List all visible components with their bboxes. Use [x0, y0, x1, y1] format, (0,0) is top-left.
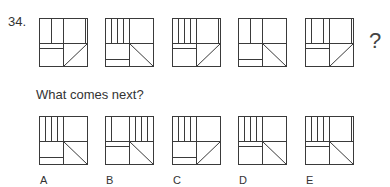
option-d-label[interactable]: D — [239, 174, 247, 186]
figure-line — [130, 142, 154, 165]
sequence-figure-3 — [172, 18, 221, 67]
option-e-label[interactable]: E — [306, 174, 313, 186]
option-b-label[interactable]: B — [106, 174, 113, 186]
sequence-figure-5 — [305, 18, 354, 67]
missing-figure-marker: ? — [369, 28, 381, 54]
question-prompt: What comes next? — [36, 87, 144, 102]
figure-line — [64, 44, 88, 67]
figure-line — [330, 44, 354, 67]
option-c-figure[interactable] — [172, 116, 221, 165]
figure-line — [263, 142, 287, 165]
question-number: 34. — [8, 14, 26, 29]
figure-line — [263, 44, 287, 67]
sequence-figure-1 — [39, 18, 88, 67]
option-d-figure[interactable] — [238, 116, 287, 165]
option-e-figure[interactable] — [305, 116, 354, 165]
option-a-label[interactable]: A — [40, 174, 47, 186]
option-a-figure[interactable] — [39, 116, 88, 165]
figure-line — [197, 44, 221, 67]
figure-line — [64, 142, 88, 165]
figure-line — [197, 142, 221, 165]
sequence-figure-4 — [238, 18, 287, 67]
figure-line — [330, 142, 354, 165]
option-b-figure[interactable] — [105, 116, 154, 165]
option-c-label[interactable]: C — [173, 174, 181, 186]
sequence-figure-2 — [105, 18, 154, 67]
figure-line — [130, 44, 154, 67]
